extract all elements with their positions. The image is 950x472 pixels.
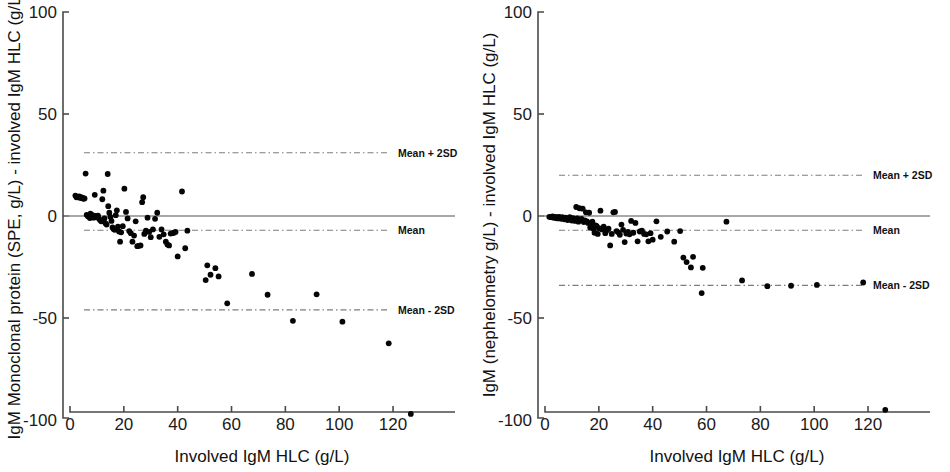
data-point: [635, 238, 641, 244]
data-point: [130, 239, 136, 245]
limit-line-label: Mean: [873, 224, 900, 236]
limit-line-label: Mean + 2SD: [873, 169, 933, 181]
data-point: [175, 253, 181, 259]
x-tick-label: 40: [168, 415, 187, 434]
data-point: [102, 216, 108, 222]
data-point: [630, 230, 636, 236]
data-point: [699, 290, 705, 296]
data-point: [125, 216, 131, 222]
x-tick-label: 60: [222, 415, 241, 434]
x-axis-title: Involved IgM HLC (g/L): [175, 447, 350, 466]
data-point: [606, 226, 612, 232]
data-point: [148, 234, 154, 240]
data-point: [633, 220, 639, 226]
data-point: [114, 207, 120, 213]
data-point: [123, 209, 129, 215]
x-tick-label: 40: [643, 415, 662, 434]
data-point: [204, 262, 210, 268]
data-point: [860, 280, 866, 286]
data-point: [131, 233, 137, 239]
data-point: [690, 254, 696, 260]
y-tick-label: 0: [523, 207, 532, 226]
data-point: [619, 222, 625, 228]
y-tick-label: -100: [498, 411, 532, 430]
y-tick-label: 100: [29, 3, 57, 22]
data-point: [814, 282, 820, 288]
data-point: [764, 283, 770, 289]
x-tick-label: 60: [697, 415, 716, 434]
limit-line-label: Mean - 2SD: [873, 279, 930, 291]
x-tick-label: 100: [800, 415, 828, 434]
data-point: [648, 230, 654, 236]
x-tick-label: 0: [540, 415, 549, 434]
data-point: [166, 242, 172, 248]
data-point: [138, 242, 144, 248]
x-tick-label: 100: [325, 415, 353, 434]
data-point: [724, 219, 730, 225]
data-point: [622, 239, 628, 245]
data-point: [109, 218, 115, 224]
data-point: [677, 228, 683, 234]
data-point: [145, 215, 151, 221]
data-point: [82, 196, 88, 202]
data-point: [684, 259, 690, 265]
x-tick-label: 80: [276, 415, 295, 434]
x-axis-title: Involved IgM HLC (g/L): [650, 447, 825, 466]
data-point: [658, 234, 664, 240]
data-point: [617, 232, 623, 238]
x-tick-label: 20: [114, 415, 133, 434]
x-axis-line: [545, 406, 930, 412]
data-point: [100, 188, 106, 194]
data-point: [739, 278, 745, 284]
data-point: [216, 273, 222, 279]
data-point: [595, 231, 601, 237]
data-point: [607, 242, 613, 248]
data-point: [104, 222, 110, 228]
scatter-plot-left: -100-50050100020406080100120Mean + 2SDMe…: [0, 0, 475, 472]
x-tick-label: 120: [379, 415, 407, 434]
y-axis-line: [63, 12, 69, 418]
y-axis-title: IgM Monoclonal protein (SPE, g/L) - invo…: [5, 0, 24, 439]
data-point: [117, 239, 123, 245]
data-point: [83, 171, 89, 177]
data-point: [120, 223, 126, 229]
x-tick-label: 20: [589, 415, 608, 434]
data-point: [224, 300, 230, 306]
y-tick-label: -50: [507, 309, 532, 328]
data-point: [184, 228, 190, 234]
scatter-plot-right: -100-50050100020406080100120Mean + 2SDMe…: [475, 0, 950, 472]
limit-line-label: Mean: [398, 224, 425, 236]
data-point: [290, 318, 296, 324]
y-tick-label: 100: [504, 3, 532, 22]
x-tick-label: 80: [751, 415, 770, 434]
data-point: [609, 231, 615, 237]
data-point: [408, 411, 414, 417]
y-axis-line: [538, 12, 544, 418]
data-point: [161, 231, 167, 237]
data-point: [179, 189, 185, 195]
data-point: [203, 277, 209, 283]
data-point: [340, 319, 346, 325]
x-tick-label: 120: [854, 415, 882, 434]
limit-line-label: Mean + 2SD: [398, 147, 458, 159]
data-point: [182, 245, 188, 251]
x-axis-line: [70, 406, 455, 412]
data-point: [249, 271, 255, 277]
data-point: [99, 196, 105, 202]
data-point: [139, 199, 145, 205]
chart-panel-left: -100-50050100020406080100120Mean + 2SDMe…: [0, 0, 475, 472]
limit-line-label: Mean - 2SD: [398, 304, 455, 316]
data-point: [113, 212, 119, 218]
data-point: [133, 218, 139, 224]
data-point-group: [72, 171, 413, 417]
data-point: [650, 237, 656, 243]
data-point: [664, 229, 670, 235]
y-axis-title: IgM (nephelometry g/L) - involved IgM HL…: [480, 33, 499, 398]
x-tick-label: 0: [65, 415, 74, 434]
data-point-group: [546, 204, 888, 413]
y-tick-label: 0: [48, 207, 57, 226]
chart-panel-right: -100-50050100020406080100120Mean + 2SDMe…: [475, 0, 950, 472]
data-point: [152, 216, 158, 222]
data-point: [265, 292, 271, 298]
data-point: [654, 218, 660, 224]
